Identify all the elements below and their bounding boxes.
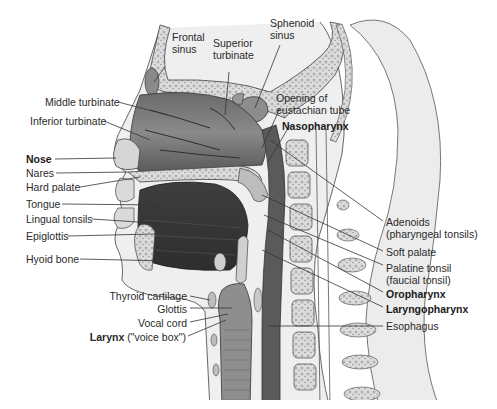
label-glottis: Glottis <box>157 303 187 315</box>
label-nares: Nares <box>26 167 54 179</box>
label-superior-turbinate-line2: turbinate <box>213 49 254 61</box>
label-adenoids-line1: Adenoids <box>386 216 478 228</box>
label-laryngopharynx: Laryngopharynx <box>386 303 468 315</box>
label-sphenoid-sinus-line2: sinus <box>270 29 314 41</box>
label-lingual-tonsils: Lingual tonsils <box>26 213 93 225</box>
label-oropharynx: Oropharynx <box>386 288 446 300</box>
label-opening-eustachian-line1: Opening of <box>276 92 350 104</box>
upper-lip <box>115 178 134 202</box>
label-larynx: Larynx ("voice box") <box>90 331 186 343</box>
label-frontal-sinus-line2: sinus <box>172 43 205 55</box>
label-esophagus: Esophagus <box>386 320 439 332</box>
label-nasopharynx: Nasopharynx <box>282 120 349 132</box>
label-adenoids-line2: (pharyngeal tonsils) <box>386 228 478 240</box>
label-epiglottis: Epiglottis <box>26 230 69 242</box>
epiglottis <box>236 236 248 283</box>
label-sphenoid-sinus-line1: Sphenoid <box>270 17 314 29</box>
label-palatine-tonsil-line1: Palatine tonsil <box>386 262 451 274</box>
label-superior-turbinate: Superior turbinate <box>213 37 254 61</box>
label-thyroid-cartilage: Thyroid cartilage <box>109 290 187 302</box>
label-opening-eustachian-line2: eustachian tube <box>276 104 350 116</box>
label-palatine-tonsil: Palatine tonsil (faucial tonsil) <box>386 262 451 286</box>
hyoid-bone <box>214 253 226 271</box>
label-palatine-tonsil-line2: (faucial tonsil) <box>386 274 451 286</box>
label-frontal-sinus: Frontal sinus <box>172 31 205 55</box>
label-tongue: Tongue <box>26 198 60 210</box>
label-superior-turbinate-line1: Superior <box>213 37 254 49</box>
label-vocal-cord: Vocal cord <box>138 317 187 329</box>
label-soft-palate: Soft palate <box>386 246 436 258</box>
anatomy-illustration <box>0 0 497 409</box>
label-nose: Nose <box>26 153 52 165</box>
label-middle-turbinate: Middle turbinate <box>45 96 120 108</box>
label-inferior-turbinate: Inferior turbinate <box>30 115 106 127</box>
label-sphenoid-sinus: Sphenoid sinus <box>270 17 314 41</box>
label-hyoid-bone: Hyoid bone <box>26 253 79 265</box>
label-larynx-gloss: ("voice box") <box>124 331 186 343</box>
frontal-sinus <box>145 68 159 96</box>
tongue <box>138 182 248 270</box>
label-hard-palate: Hard palate <box>26 181 80 193</box>
lower-lip <box>114 208 134 228</box>
label-frontal-sinus-line1: Frontal <box>172 31 205 43</box>
label-adenoids: Adenoids (pharyngeal tonsils) <box>386 216 478 240</box>
label-larynx-term: Larynx <box>90 331 124 343</box>
label-opening-eustachian-tube: Opening of eustachian tube <box>276 92 350 116</box>
neck-posterior <box>350 20 441 409</box>
